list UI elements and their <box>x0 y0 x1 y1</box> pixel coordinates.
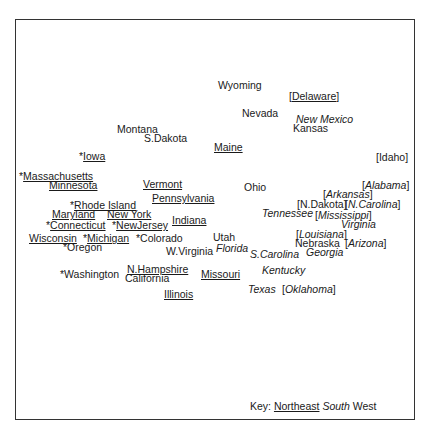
state-label: Florida <box>216 243 248 254</box>
legend-south: South <box>322 400 349 412</box>
state-label: Ohio <box>244 182 266 193</box>
state-label: *Oregon <box>63 242 102 253</box>
state-label: Indiana <box>172 215 206 226</box>
state-label: [Oklahoma] <box>282 284 336 295</box>
state-label: Tennessee <box>262 208 313 219</box>
state-label: Minnesota <box>49 180 97 191</box>
state-label: Maine <box>214 142 243 153</box>
state-label: [Idaho] <box>376 152 408 163</box>
state-label: S.Dakota <box>144 133 187 144</box>
state-label: Georgia <box>306 247 343 258</box>
legend-west: West <box>353 400 377 412</box>
state-label: *NewJersey <box>112 220 168 231</box>
state-label: Pennsylvania <box>152 193 214 204</box>
state-label: W.Virginia <box>166 246 213 257</box>
legend-prefix: Key: <box>250 400 271 412</box>
state-label: Vermont <box>143 179 182 190</box>
state-label: *Iowa <box>79 151 105 162</box>
state-label: Kansas <box>293 123 328 134</box>
state-label: [Arizona] <box>345 238 386 249</box>
state-label: Nevada <box>242 108 278 119</box>
state-label: Kentucky <box>262 265 305 276</box>
state-label: *Connecticut <box>46 220 106 231</box>
state-label: California <box>125 273 169 284</box>
legend: Key: Northeast South West <box>250 400 377 412</box>
state-label: Texas <box>248 284 276 295</box>
state-label: *Washington <box>60 269 119 280</box>
state-label: S.Carolina <box>250 249 299 260</box>
state-label: Illinois <box>164 289 193 300</box>
state-label: Wyoming <box>218 80 262 91</box>
state-label: Missouri <box>201 269 240 280</box>
state-label: *Colorado <box>136 233 183 244</box>
legend-northeast: Northeast <box>274 400 320 412</box>
state-label: [Delaware] <box>289 91 339 102</box>
